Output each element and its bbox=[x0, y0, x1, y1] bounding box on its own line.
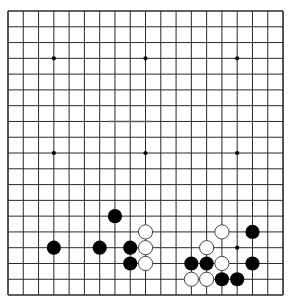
intersection[interactable] bbox=[260, 161, 275, 177]
intersection[interactable] bbox=[61, 287, 76, 303]
intersection[interactable] bbox=[245, 50, 260, 66]
intersection[interactable] bbox=[260, 256, 275, 272]
intersection[interactable] bbox=[0, 19, 15, 35]
intersection[interactable] bbox=[16, 35, 31, 51]
intersection[interactable] bbox=[16, 82, 31, 98]
intersection[interactable] bbox=[77, 82, 92, 98]
intersection[interactable] bbox=[245, 98, 260, 114]
intersection[interactable] bbox=[46, 19, 61, 35]
intersection[interactable] bbox=[0, 287, 15, 303]
intersection[interactable] bbox=[199, 3, 214, 19]
intersection[interactable] bbox=[61, 208, 76, 224]
intersection[interactable] bbox=[107, 224, 122, 240]
intersection[interactable] bbox=[61, 3, 76, 19]
intersection[interactable] bbox=[184, 98, 199, 114]
intersection[interactable] bbox=[16, 287, 31, 303]
intersection[interactable] bbox=[123, 3, 138, 19]
intersection[interactable] bbox=[107, 177, 122, 193]
intersection[interactable] bbox=[275, 35, 290, 51]
intersection[interactable] bbox=[31, 256, 46, 272]
intersection[interactable] bbox=[0, 3, 15, 19]
intersection[interactable] bbox=[153, 287, 168, 303]
intersection[interactable] bbox=[107, 271, 122, 287]
intersection[interactable] bbox=[230, 66, 245, 82]
intersection[interactable] bbox=[31, 240, 46, 256]
go-board-canvas[interactable] bbox=[0, 0, 291, 308]
intersection[interactable] bbox=[123, 145, 138, 161]
intersection[interactable] bbox=[107, 145, 122, 161]
intersection[interactable] bbox=[138, 82, 153, 98]
intersection[interactable] bbox=[153, 98, 168, 114]
intersection[interactable] bbox=[230, 35, 245, 51]
intersection[interactable] bbox=[153, 161, 168, 177]
intersection[interactable] bbox=[230, 287, 245, 303]
intersection[interactable] bbox=[77, 50, 92, 66]
intersection[interactable] bbox=[46, 82, 61, 98]
intersection[interactable] bbox=[123, 177, 138, 193]
intersection[interactable] bbox=[184, 177, 199, 193]
intersection[interactable] bbox=[16, 50, 31, 66]
intersection[interactable] bbox=[168, 161, 183, 177]
intersection[interactable] bbox=[107, 161, 122, 177]
intersection[interactable] bbox=[16, 129, 31, 145]
intersection[interactable] bbox=[168, 287, 183, 303]
intersection[interactable] bbox=[77, 177, 92, 193]
intersection[interactable] bbox=[168, 66, 183, 82]
intersection[interactable] bbox=[61, 66, 76, 82]
intersection[interactable] bbox=[31, 3, 46, 19]
intersection[interactable] bbox=[260, 271, 275, 287]
intersection[interactable] bbox=[199, 50, 214, 66]
intersection[interactable] bbox=[92, 98, 107, 114]
intersection[interactable] bbox=[184, 50, 199, 66]
intersection[interactable] bbox=[31, 129, 46, 145]
intersection[interactable] bbox=[230, 19, 245, 35]
intersection[interactable] bbox=[0, 161, 15, 177]
intersection[interactable] bbox=[275, 98, 290, 114]
intersection[interactable] bbox=[138, 19, 153, 35]
intersection[interactable] bbox=[61, 98, 76, 114]
intersection[interactable] bbox=[0, 177, 15, 193]
intersection[interactable] bbox=[92, 287, 107, 303]
intersection[interactable] bbox=[138, 177, 153, 193]
intersection[interactable] bbox=[199, 82, 214, 98]
intersection[interactable] bbox=[46, 35, 61, 51]
intersection[interactable] bbox=[260, 19, 275, 35]
intersection[interactable] bbox=[230, 161, 245, 177]
intersection[interactable] bbox=[199, 192, 214, 208]
intersection[interactable] bbox=[46, 208, 61, 224]
intersection[interactable] bbox=[31, 114, 46, 130]
intersection[interactable] bbox=[230, 145, 245, 161]
intersection[interactable] bbox=[275, 208, 290, 224]
intersection[interactable] bbox=[123, 35, 138, 51]
intersection[interactable] bbox=[214, 192, 229, 208]
intersection[interactable] bbox=[245, 240, 260, 256]
intersection[interactable] bbox=[260, 145, 275, 161]
intersection[interactable] bbox=[275, 240, 290, 256]
intersection[interactable] bbox=[107, 240, 122, 256]
intersection[interactable] bbox=[123, 114, 138, 130]
intersection[interactable] bbox=[31, 66, 46, 82]
intersection[interactable] bbox=[92, 19, 107, 35]
intersection[interactable] bbox=[77, 224, 92, 240]
intersection[interactable] bbox=[31, 287, 46, 303]
intersection[interactable] bbox=[92, 177, 107, 193]
intersection[interactable] bbox=[168, 224, 183, 240]
intersection[interactable] bbox=[92, 208, 107, 224]
intersection[interactable] bbox=[123, 192, 138, 208]
intersection[interactable] bbox=[0, 208, 15, 224]
intersection[interactable] bbox=[138, 192, 153, 208]
intersection[interactable] bbox=[31, 35, 46, 51]
intersection[interactable] bbox=[61, 161, 76, 177]
intersection[interactable] bbox=[16, 240, 31, 256]
intersection[interactable] bbox=[199, 129, 214, 145]
intersection[interactable] bbox=[107, 256, 122, 272]
intersection[interactable] bbox=[184, 192, 199, 208]
intersection[interactable] bbox=[230, 3, 245, 19]
intersection[interactable] bbox=[184, 208, 199, 224]
intersection[interactable] bbox=[184, 129, 199, 145]
intersection[interactable] bbox=[245, 287, 260, 303]
intersection[interactable] bbox=[138, 98, 153, 114]
intersection[interactable] bbox=[92, 192, 107, 208]
intersection[interactable] bbox=[153, 50, 168, 66]
intersection[interactable] bbox=[260, 240, 275, 256]
